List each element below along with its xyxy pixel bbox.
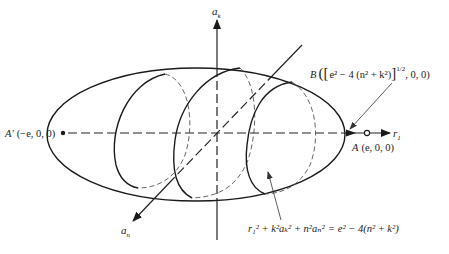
slice-left-back [138,74,190,188]
point-a-label: A(e, 0, 0) [351,142,395,154]
surface-equation: r₁² + k²aₖ² + n²aₙ²=e² − 4(n² + k²) [248,223,399,235]
slice-right-back [265,82,316,194]
point-a-marker [364,130,369,135]
an-axis-upper [274,45,302,74]
point-b-marker [346,130,356,137]
an-axis-hidden [172,74,274,180]
r1-axis-label: r1 [393,127,401,142]
ellipsoid-diagram: ak an r1 A′(−e, 0, 0) A(e, 0, 0) B([e² −… [0,0,449,254]
ellipsoid-outline [47,68,345,201]
ak-axis-label: ak [212,5,222,20]
b-leader-line [350,83,392,129]
equation-leader-line [268,172,281,220]
an-axis-label: an [121,224,131,239]
point-b-label: B([e² − 4 (n² + k²)]1/2, 0, 0) [310,65,430,82]
point-a-prime-label: A′(−e, 0, 0) [4,128,56,140]
point-a-prime-marker [61,131,65,135]
slice-left-front [114,74,165,188]
